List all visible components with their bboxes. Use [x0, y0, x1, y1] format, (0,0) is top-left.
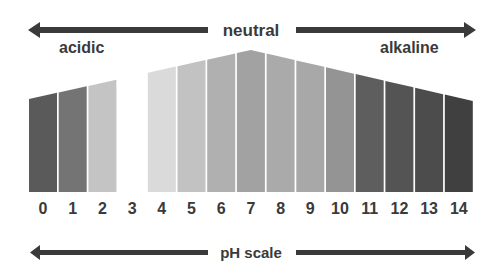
ph-bar-4	[148, 67, 176, 192]
ph-bar-6	[207, 53, 235, 192]
ph-tick-label: 4	[157, 200, 166, 217]
ph-tick-labels: 01234567891011121314	[39, 200, 468, 217]
ph-tick-label: 2	[98, 200, 107, 217]
ph-bars	[29, 50, 473, 192]
ph-tick-label: 10	[331, 200, 349, 217]
ph-tick-label: 6	[217, 200, 226, 217]
ph-tick-label: 7	[246, 200, 255, 217]
ph-tick-label: 11	[361, 200, 378, 217]
alkaline-label: alkaline	[380, 39, 439, 56]
neutral-label: neutral	[223, 21, 280, 40]
ph-tick-label: 14	[450, 200, 468, 217]
ph-bar-8	[267, 54, 295, 192]
alkaline-arrow-icon	[296, 22, 476, 38]
acidic-label: acidic	[59, 39, 104, 56]
ph-bar-5	[178, 60, 206, 192]
ph-tick-label: 12	[391, 200, 409, 217]
ph-scale-label: pH scale	[220, 244, 282, 261]
ph-tick-label: 1	[68, 200, 77, 217]
ph-tick-label: 9	[306, 200, 315, 217]
ph-bar-11	[356, 74, 384, 192]
ph-bar-7	[237, 50, 265, 192]
ph-bar-10	[326, 67, 354, 192]
ph-bar-9	[296, 60, 324, 192]
ph-tick-label: 13	[420, 200, 438, 217]
ph-tick-label: 5	[187, 200, 196, 217]
ph-bar-12	[385, 81, 413, 192]
ph-tick-label: 8	[276, 200, 285, 217]
ph-bar-14	[445, 95, 473, 192]
ph-scale-diagram: neutral acidic alkaline 0123456789101112…	[0, 0, 503, 276]
ph-bar-2	[88, 80, 116, 192]
ph-bar-1	[59, 86, 87, 192]
ph-bar-13	[415, 88, 443, 192]
ph-tick-label: 0	[39, 200, 48, 217]
ph-tick-label: 3	[128, 200, 137, 217]
acidic-arrow-icon	[28, 22, 208, 38]
ph-bar-3	[118, 73, 146, 192]
ph-bar-0	[29, 93, 57, 192]
